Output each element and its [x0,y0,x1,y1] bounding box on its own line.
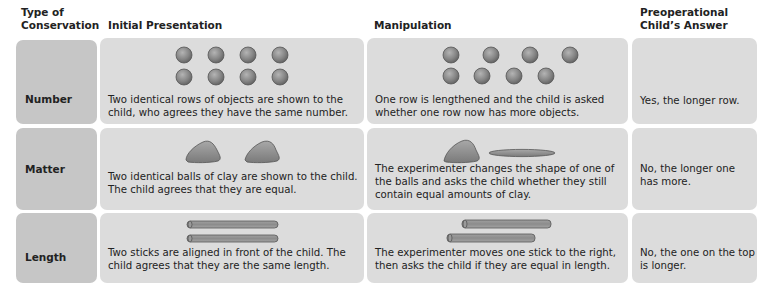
child-answer: Yes, the longer row. [640,94,755,107]
row-number-initial-cell: Two identical rows of objects are shown … [100,38,364,124]
row-length-type-cell: Length [16,213,97,283]
header-child-answer: Preoperational Child’s Answer [640,6,728,32]
manipulation-description: The experimenter moves one stick to the … [375,246,625,272]
row-length-initial-cell: Two sticks are aligned in front of the c… [100,213,364,283]
manipulation-description: One row is lengthened and the child is a… [375,93,623,119]
row-length-answer-cell: No, the one on the top is longer. [632,213,757,283]
row-matter-manipulation-cell: The experimenter changes the shape of on… [367,128,628,210]
row-number-answer-cell: Yes, the longer row. [632,38,757,124]
initial-description: Two identical balls of clay are shown to… [108,170,358,196]
type-label: Length [25,251,66,263]
row-length-manipulation-cell: The experimenter moves one stick to the … [367,213,628,283]
child-answer: No, the one on the top is longer. [640,246,758,272]
manipulation-description: The experimenter changes the shape of on… [375,162,625,201]
header-line: Type of [21,6,99,19]
child-answer: No, the longer one has more. [640,162,755,188]
row-number-type-cell: Number [16,40,97,124]
header-manipulation: Manipulation [374,19,452,32]
header-type-of-conservation: Type of Conservation [21,6,99,32]
row-number-manipulation-cell: One row is lengthened and the child is a… [367,38,628,124]
header-line: Child’s Answer [640,19,728,32]
row-matter-type-cell: Matter [16,128,97,210]
header-initial-presentation: Initial Presentation [108,19,222,32]
row-matter-answer-cell: No, the longer one has more. [632,128,757,210]
header-line: Conservation [21,19,99,32]
row-matter-initial-cell: Two identical balls of clay are shown to… [100,128,364,210]
initial-description: Two identical rows of objects are shown … [108,93,358,119]
type-label: Number [25,93,72,105]
header-line: Preoperational [640,6,728,19]
two-clay-balls-icon [100,128,364,210]
initial-description: Two sticks are aligned in front of the c… [108,246,358,272]
type-label: Matter [25,163,65,175]
